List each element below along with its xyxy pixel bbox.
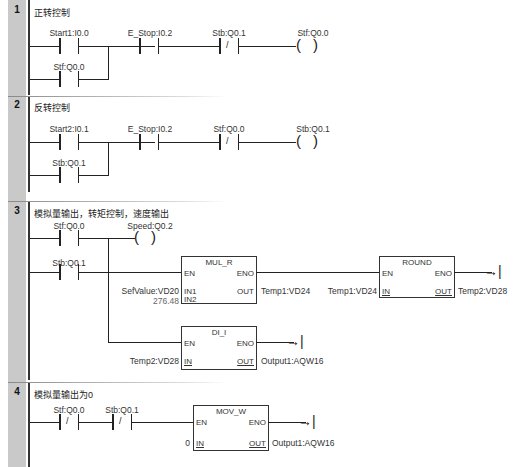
contact-no[interactable] bbox=[59, 38, 79, 54]
round-block[interactable]: ROUND EN ENO IN OUT bbox=[379, 256, 455, 298]
contact-label: Stf:Q0.0 bbox=[213, 124, 244, 134]
wire bbox=[30, 79, 59, 80]
network-title[interactable]: 模拟量输出，转矩控制，速度输出 bbox=[34, 207, 169, 220]
pin-eno: ENO bbox=[237, 339, 254, 348]
pin-in: IN bbox=[184, 357, 192, 366]
operand-out[interactable]: Temp2:VD28 bbox=[458, 286, 507, 296]
operand-in[interactable]: Temp2:VD28 bbox=[130, 356, 179, 366]
wire bbox=[79, 422, 112, 423]
wire bbox=[132, 422, 193, 423]
wire bbox=[30, 142, 59, 143]
pin-en: EN bbox=[184, 339, 195, 348]
power-rail bbox=[28, 383, 30, 467]
wire bbox=[239, 142, 296, 143]
mul-r-block[interactable]: MUL_R EN ENO IN1 IN2 OUT bbox=[181, 256, 257, 304]
pin-eno: ENO bbox=[237, 269, 254, 278]
operand-out[interactable]: Temp1:VD24 bbox=[261, 286, 310, 296]
pin-in: IN bbox=[382, 287, 390, 296]
wire bbox=[108, 342, 181, 343]
pin-out: OUT bbox=[249, 439, 266, 448]
network-number: 2 bbox=[8, 99, 26, 110]
network-separator bbox=[8, 382, 228, 383]
contact-label: E_Stop:I0.2 bbox=[128, 124, 172, 134]
network-number: 4 bbox=[8, 386, 26, 397]
wire bbox=[30, 422, 59, 423]
wire bbox=[79, 238, 135, 239]
di-i-block[interactable]: DI_I EN ENO IN OUT bbox=[181, 326, 257, 370]
eno-arrow-icon: →| bbox=[286, 335, 304, 347]
power-rail bbox=[28, 97, 30, 192]
pin-en: EN bbox=[196, 418, 207, 427]
network-title[interactable]: 正转控制 bbox=[34, 6, 70, 19]
contact-no[interactable] bbox=[59, 167, 79, 183]
pin-out: OUT bbox=[237, 357, 254, 366]
contact-label: E_Stop:I0.2 bbox=[128, 28, 172, 38]
contact-no[interactable] bbox=[59, 71, 79, 87]
operand-in[interactable]: Temp1:VD24 bbox=[328, 286, 377, 296]
network-number: 3 bbox=[8, 205, 26, 216]
wire bbox=[79, 175, 109, 176]
contact-nc[interactable]: / bbox=[59, 414, 79, 430]
wire bbox=[79, 272, 181, 273]
wire bbox=[159, 46, 219, 47]
wire bbox=[30, 238, 59, 239]
wire bbox=[159, 142, 219, 143]
pin-out: OUT bbox=[435, 287, 452, 296]
contact-no[interactable] bbox=[139, 134, 159, 150]
contact-label: Stb:Q0.1 bbox=[212, 28, 246, 38]
pin-en: EN bbox=[184, 269, 195, 278]
power-rail bbox=[28, 202, 30, 380]
wire bbox=[108, 238, 109, 343]
contact-nc[interactable]: / bbox=[112, 414, 132, 430]
pin-eno: ENO bbox=[249, 418, 266, 427]
operand-out[interactable]: Output1:AQW16 bbox=[272, 438, 334, 448]
block-title: MOV_W bbox=[194, 407, 268, 416]
mov-w-block[interactable]: MOV_W EN ENO IN OUT bbox=[193, 405, 269, 451]
contact-no[interactable] bbox=[139, 38, 159, 54]
contact-label: Start1:I0.0 bbox=[49, 28, 88, 38]
wire bbox=[256, 272, 380, 273]
operand-in2[interactable]: 276.48 bbox=[153, 296, 179, 306]
wire bbox=[30, 46, 59, 47]
pin-in: IN bbox=[196, 439, 204, 448]
output-coil[interactable]: () bbox=[296, 38, 318, 54]
pin-eno: ENO bbox=[435, 269, 452, 278]
output-coil[interactable]: () bbox=[296, 134, 318, 150]
eno-arrow-icon: →| bbox=[298, 415, 316, 427]
contact-nc[interactable]: / bbox=[219, 38, 239, 54]
contact-no[interactable] bbox=[59, 230, 79, 246]
operand-in[interactable]: 0 bbox=[185, 438, 190, 448]
pin-out: OUT bbox=[237, 287, 254, 296]
contact-no[interactable] bbox=[59, 264, 79, 280]
wire bbox=[108, 46, 109, 80]
wire bbox=[79, 79, 109, 80]
contact-nc[interactable]: / bbox=[219, 134, 239, 150]
wire bbox=[239, 46, 296, 47]
power-rail bbox=[28, 0, 30, 95]
block-title: DI_I bbox=[182, 328, 256, 337]
network-separator bbox=[8, 201, 228, 202]
contact-no[interactable] bbox=[59, 134, 79, 150]
wire bbox=[30, 272, 59, 273]
block-title: ROUND bbox=[380, 258, 454, 267]
network-separator bbox=[8, 96, 228, 97]
block-title: MUL_R bbox=[182, 258, 256, 267]
wire bbox=[30, 175, 59, 176]
output-coil[interactable]: () bbox=[134, 230, 156, 246]
operand-out[interactable]: Output1:AQW16 bbox=[261, 356, 323, 366]
pin-in2: IN2 bbox=[184, 295, 196, 304]
operand-in1[interactable]: SefValue:VD20 bbox=[122, 286, 180, 296]
wire bbox=[108, 142, 109, 176]
eno-arrow-icon: →| bbox=[484, 265, 502, 277]
network-title[interactable]: 模拟量输出为0 bbox=[34, 388, 93, 401]
network-number: 1 bbox=[8, 4, 26, 15]
network-title[interactable]: 反转控制 bbox=[34, 101, 70, 114]
contact-label: Start2:I0.1 bbox=[49, 124, 88, 134]
pin-en: EN bbox=[382, 269, 393, 278]
